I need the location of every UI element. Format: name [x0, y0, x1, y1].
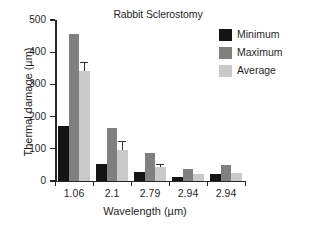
- error-bar-line-0: [84, 62, 85, 71]
- x-axis-tick: [55, 182, 56, 186]
- error-bar-line-1: [122, 141, 123, 150]
- error-bar-cap-2: [156, 164, 164, 165]
- error-bar-cap-1: [118, 141, 126, 142]
- legend-label-maximum: Maximum: [237, 46, 283, 58]
- x-axis-tick: [169, 182, 170, 186]
- x-axis-tick: [131, 182, 132, 186]
- chart-title: Rabbit Sclerostomy: [88, 8, 228, 20]
- x-axis-tick-label: 2.94: [203, 187, 249, 199]
- bar-average-3: [193, 174, 203, 181]
- x-axis-label: Wavelength (µm): [45, 205, 245, 217]
- bar-average-1: [117, 150, 127, 181]
- bar-maximum-1: [107, 128, 117, 181]
- bar-minimum-0: [58, 126, 68, 181]
- bar-minimum-1: [96, 164, 106, 181]
- legend-swatch-average: [219, 65, 232, 77]
- x-axis-tick: [207, 182, 208, 186]
- bar-minimum-4: [210, 174, 220, 181]
- x-axis-tick: [245, 182, 246, 186]
- y-axis-tick-label: 500: [18, 14, 46, 25]
- y-axis-tick-label: 300: [18, 78, 46, 89]
- bar-maximum-0: [69, 34, 79, 181]
- x-axis-tick: [93, 182, 94, 186]
- legend-swatch-maximum: [219, 47, 232, 59]
- bar-maximum-2: [145, 153, 155, 181]
- chart-figure: Rabbit Sclerostomy Thermal damage (µm) 0…: [0, 0, 316, 226]
- bar-average-2: [155, 167, 165, 181]
- bar-maximum-3: [183, 169, 193, 181]
- legend-swatch-minimum: [219, 29, 232, 41]
- y-axis-tick-label: 0: [18, 175, 46, 186]
- bar-minimum-2: [134, 172, 144, 181]
- bar-minimum-3: [172, 177, 182, 181]
- legend-label-minimum: Minimum: [237, 28, 280, 40]
- bar-average-0: [79, 71, 89, 181]
- bar-maximum-4: [221, 165, 231, 181]
- bar-average-4: [231, 173, 241, 181]
- error-bar-cap-0: [80, 62, 88, 63]
- y-axis-tick-label: 400: [18, 46, 46, 57]
- y-axis-tick-label: 100: [18, 143, 46, 154]
- plot-area: [55, 20, 245, 181]
- legend-label-average: Average: [237, 64, 276, 76]
- y-axis-tick-label: 200: [18, 111, 46, 122]
